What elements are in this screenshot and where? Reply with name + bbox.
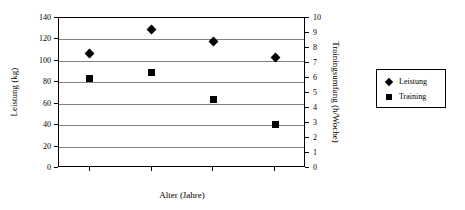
y-axis-left-title: Leistung (kg) <box>9 68 19 117</box>
y-axis-left-tick-label: 20 <box>43 143 51 151</box>
y-axis-left-tick: 120 <box>54 38 58 39</box>
y-axis-right-tick-label: 9 <box>313 29 317 37</box>
y-axis-left-tick: 0 <box>54 167 58 168</box>
gridline <box>59 147 304 148</box>
y-axis-left-tick: 80 <box>54 81 58 82</box>
gridline <box>59 104 304 105</box>
y-axis-left-tick-label: 60 <box>43 100 51 108</box>
y-axis-right-tick-label: 8 <box>313 44 317 52</box>
y-axis-right-tick-label: 2 <box>313 134 317 142</box>
y-axis-right-tick: 2 <box>305 137 309 138</box>
y-axis-left-tick: 100 <box>54 60 58 61</box>
gridline <box>59 39 304 40</box>
y-axis-left-tick-label: 100 <box>39 57 51 65</box>
y-axis-left-tick-label: 120 <box>39 35 51 43</box>
legend-item-training: Training <box>384 92 426 102</box>
y-axis-right-tick: 3 <box>305 122 309 123</box>
y-axis-right-tick: 9 <box>305 32 309 33</box>
y-axis-left-tick-label: 140 <box>39 14 51 22</box>
x-axis-tick: 40 <box>212 167 213 171</box>
y-axis-left-tick-label: 80 <box>43 78 51 86</box>
y-axis-right-title: Trainingsumfang (h/Woche) <box>331 41 341 143</box>
legend-item-label: Leistung <box>399 78 427 86</box>
legend-item-label: Training <box>399 93 426 101</box>
y-axis-right-tick-label: 5 <box>313 89 317 97</box>
y-axis-right-tick-label: 0 <box>313 164 317 172</box>
x-axis-title: Alter (Jahre) <box>159 190 205 200</box>
y-axis-left-tick: 140 <box>54 17 58 18</box>
y-axis-right-tick-label: 4 <box>313 104 317 112</box>
y-axis-left-tick-label: 40 <box>43 121 51 129</box>
diamond-marker-icon <box>384 77 394 87</box>
y-axis-right-tick-label: 3 <box>313 119 317 127</box>
gridline <box>59 125 304 126</box>
y-axis-right-tick: 5 <box>305 92 309 93</box>
y-axis-right-tick: 8 <box>305 47 309 48</box>
plot-area <box>58 17 305 167</box>
legend-item-leistung: Leistung <box>384 77 427 87</box>
y-axis-right-tick-label: 6 <box>313 74 317 82</box>
x-axis-tick: 50 <box>274 167 275 171</box>
y-axis-left-tick: 60 <box>54 103 58 104</box>
y-axis-left-tick: 40 <box>54 124 58 125</box>
y-axis-right-tick-label: 10 <box>313 14 321 22</box>
x-axis-tick: 30 <box>151 167 152 171</box>
y-axis-right-tick: 7 <box>305 62 309 63</box>
square-marker-icon <box>384 92 394 102</box>
y-axis-right-tick: 0 <box>305 167 309 168</box>
y-axis-right-tick: 10 <box>305 17 309 18</box>
gridline <box>59 61 304 62</box>
x-axis-tick: 20 <box>89 167 90 171</box>
legend: Leistung Training <box>376 69 446 108</box>
y-axis-right-tick: 6 <box>305 77 309 78</box>
y-axis-right-tick-label: 7 <box>313 59 317 67</box>
y-axis-right-tick-label: 1 <box>313 149 317 157</box>
y-axis-right-tick: 1 <box>305 152 309 153</box>
y-axis-left-tick: 20 <box>54 146 58 147</box>
gridline <box>59 82 304 83</box>
chart-screenshot: Leistung (kg) Trainingsumfang (h/Woche) … <box>0 0 465 210</box>
y-axis-right-tick: 4 <box>305 107 309 108</box>
y-axis-left-tick-label: 0 <box>47 164 51 172</box>
